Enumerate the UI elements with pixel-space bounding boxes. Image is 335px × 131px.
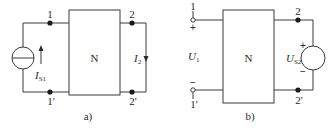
minus-sign-u1: − [190,77,196,88]
wire-a-top-left [23,23,69,47]
node-2-prime [129,89,134,94]
minus-sign-us2: − [300,66,306,77]
arrow-down-icon [144,56,149,62]
label-u1: U1 [188,50,200,64]
network-label-b: N [245,52,253,64]
plus-sign-u1: + [190,22,196,33]
terminal-label-b-1: 1 [190,0,196,12]
node-1 [47,20,52,25]
circuit-figure: IS1 N 1 1' 2 2' I2 a) 1 + − 1' U1 [0,0,335,131]
plus-sign-us2: + [300,40,306,51]
terminal-label-1: 1 [47,8,53,20]
caption-a: a) [84,110,93,123]
node-2 [129,20,134,25]
wire-a-right-loop [120,23,146,92]
network-label-a: N [91,52,99,64]
node-1-prime [47,89,52,94]
label-is1: IS1 [34,69,47,83]
label-us2: US2 [286,52,302,66]
terminal-label-b-2-prime: 2' [295,94,303,106]
terminal-label-2-prime: 2' [129,95,137,107]
label-i2: I2 [133,52,142,66]
node-b-2-prime [295,87,300,92]
wire-b-top-right [274,20,313,46]
terminal-label-b-1-prime: 1' [190,98,198,110]
terminal-label-2: 2 [129,8,135,20]
open-terminal-1-prime [191,88,195,92]
node-b-2 [295,17,300,22]
arrow-up-icon [39,45,44,64]
caption-b: b) [245,110,255,123]
diagram-b: 1 + − 1' U1 N 2 2' + − US2 b) [188,0,325,123]
terminal-label-b-2: 2 [295,5,301,17]
current-source-icon [12,47,34,69]
terminal-label-1-prime: 1' [47,95,55,107]
wire-b-bottom-right [274,70,313,90]
diagram-a: IS1 N 1 1' 2 2' I2 a) [12,8,149,123]
